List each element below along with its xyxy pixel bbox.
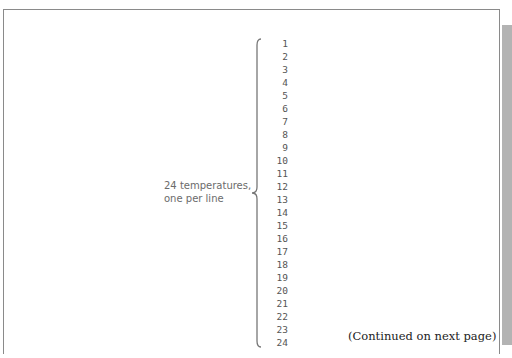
line-number: 22: [264, 310, 288, 323]
continued-note: (Continued on next page): [348, 329, 496, 343]
line-number: 2: [264, 50, 288, 63]
line-number: 14: [264, 206, 288, 219]
line-number: 6: [264, 102, 288, 115]
line-number: 16: [264, 232, 288, 245]
line-number: 10: [264, 154, 288, 167]
line-number: 15: [264, 219, 288, 232]
annotation-label: 24 temperatures, one per line: [164, 179, 251, 205]
line-number: 1: [264, 37, 288, 50]
line-number: 18: [264, 258, 288, 271]
line-number: 23: [264, 323, 288, 336]
line-number: 13: [264, 193, 288, 206]
line-number: 5: [264, 89, 288, 102]
line-number: 8: [264, 128, 288, 141]
line-number: 9: [264, 141, 288, 154]
line-number: 17: [264, 245, 288, 258]
annotation-line-1: 24 temperatures,: [164, 179, 251, 192]
line-number: 7: [264, 115, 288, 128]
line-number: 12: [264, 180, 288, 193]
line-number: 21: [264, 297, 288, 310]
line-number-list: 1 2 3 4 5 6 7 8 9 10 11 12 13 14 15 16 1…: [264, 37, 288, 349]
line-number: 19: [264, 271, 288, 284]
line-number: 24: [264, 336, 288, 349]
line-number: 3: [264, 63, 288, 76]
curly-brace-icon: [251, 37, 263, 349]
line-number: 4: [264, 76, 288, 89]
page-side-tab: [502, 25, 512, 345]
line-number: 11: [264, 167, 288, 180]
line-number: 20: [264, 284, 288, 297]
annotation-line-2: one per line: [164, 192, 251, 205]
